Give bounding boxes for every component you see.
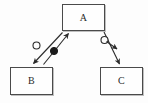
diagram-canvas: A B C (0, 0, 148, 103)
open-circle-marker-a-b (33, 42, 40, 49)
filled-circle-marker-b-a (50, 47, 57, 54)
node-a[interactable]: A (62, 4, 105, 31)
node-b-label: B (28, 76, 35, 86)
node-c-label: C (118, 76, 125, 86)
edge-a-to-c (101, 32, 120, 64)
node-a-label: A (80, 13, 87, 23)
node-b[interactable]: B (10, 67, 53, 95)
node-c[interactable]: C (100, 67, 143, 95)
